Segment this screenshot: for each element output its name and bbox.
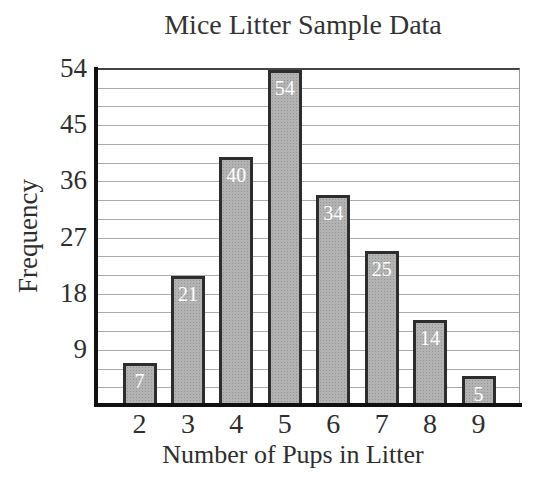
bar-value-label: 21 (174, 282, 202, 306)
bar-5: 54 (268, 70, 302, 407)
gridline (97, 369, 519, 370)
y-tick-label-9: 9 (17, 334, 87, 364)
gridline (97, 125, 519, 126)
bar-8: 14 (413, 320, 447, 407)
chart-title: Mice Litter Sample Data (87, 10, 519, 40)
bar-7: 25 (365, 251, 399, 407)
x-axis-label: Number of Pups in Litter (77, 440, 509, 470)
x-tick-label-6: 6 (308, 409, 358, 439)
gridline (97, 238, 519, 239)
gridline (97, 144, 519, 145)
x-tick-label-3: 3 (163, 409, 213, 439)
gridline (97, 200, 519, 201)
y-tick-label-27: 27 (17, 222, 87, 252)
gridline (97, 106, 519, 107)
gridline (97, 181, 519, 182)
y-tick-label-45: 45 (17, 109, 87, 139)
x-axis-line (94, 403, 522, 407)
gridline (97, 219, 519, 220)
bar-value-label: 40 (222, 163, 250, 187)
x-tick-label-4: 4 (211, 409, 261, 439)
bar-2: 7 (123, 363, 157, 407)
gridline (97, 350, 519, 351)
y-tick-label-18: 18 (17, 278, 87, 308)
gridline (97, 275, 519, 276)
x-tick-label-8: 8 (405, 409, 455, 439)
bar-value-label: 7 (126, 369, 154, 393)
bar-value-label: 34 (319, 201, 347, 225)
bar-3: 21 (171, 276, 205, 407)
plot-area: 72140543425145 (97, 68, 520, 407)
bar-value-label: 14 (416, 326, 444, 350)
gridline (97, 256, 519, 257)
gridline (97, 163, 519, 164)
bar-4: 40 (219, 157, 253, 407)
x-tick-label-7: 7 (357, 409, 407, 439)
x-tick-label-5: 5 (260, 409, 310, 439)
gridline (97, 331, 519, 332)
y-axis-line (94, 67, 98, 407)
bar-6: 34 (316, 195, 350, 407)
y-tick-label-36: 36 (17, 165, 87, 195)
chart-figure: Mice Litter Sample Data Frequency 721405… (0, 0, 549, 493)
gridline (97, 88, 519, 89)
x-tick-label-2: 2 (115, 409, 165, 439)
gridline (97, 387, 519, 388)
y-tick-label-54: 54 (17, 53, 87, 83)
bar-value-label: 54 (271, 76, 299, 100)
gridline (97, 294, 519, 295)
bar-value-label: 25 (368, 257, 396, 281)
x-tick-label-9: 9 (454, 409, 504, 439)
gridline (97, 312, 519, 313)
